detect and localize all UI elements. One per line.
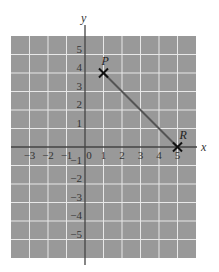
- x-tick-label: 2: [119, 149, 125, 161]
- x-tick-label: 0: [86, 149, 92, 161]
- x-tick-label: 4: [156, 149, 162, 161]
- point-label: R: [179, 128, 188, 142]
- y-tick-label: −4: [70, 209, 82, 221]
- y-tick-label: 1: [77, 117, 83, 129]
- y-tick-label: 4: [77, 61, 83, 73]
- x-tick-label: −3: [24, 149, 36, 161]
- x-tick-label: 1: [101, 149, 107, 161]
- point-label: P: [101, 54, 110, 68]
- x-tick-label: 5: [175, 149, 181, 161]
- y-tick-label: −2: [70, 172, 82, 184]
- y-axis-label: y: [80, 11, 87, 25]
- y-tick-label: −5: [70, 228, 82, 240]
- x-tick-label: −2: [42, 149, 54, 161]
- coordinate-plane: −3−2−101234554321−1−2−3−4−5 PR x y: [0, 0, 219, 272]
- y-tick-label: −3: [70, 191, 82, 203]
- x-axis-label: x: [200, 140, 207, 154]
- y-tick-label: 2: [77, 98, 83, 110]
- x-tick-label: 3: [138, 149, 144, 161]
- y-tick-label: 5: [77, 43, 83, 55]
- y-tick-label: 3: [77, 80, 83, 92]
- y-tick-label: −1: [70, 154, 82, 166]
